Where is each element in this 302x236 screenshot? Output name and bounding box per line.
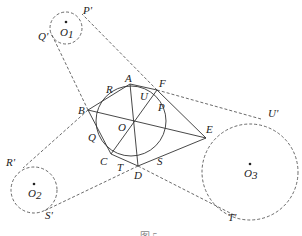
label-u-prime: U' <box>268 107 279 119</box>
label-s: S <box>157 155 163 167</box>
label-e: E <box>205 123 213 135</box>
label-f: F <box>158 77 166 89</box>
label-s-prime: S' <box>45 209 54 221</box>
label-p-prime: P' <box>82 4 93 16</box>
geometry-figure: A F E D C B R U P Q T S O P' Q' R' S' U'… <box>0 0 302 236</box>
diagonal-ad <box>130 84 138 166</box>
diagonal-be <box>88 110 206 138</box>
center-dot-o2 <box>33 183 36 186</box>
label-t: T <box>117 161 124 173</box>
figure-caption: 图 5 <box>140 231 158 236</box>
tangent-line-b-rprime <box>23 110 88 168</box>
tangent-line-d-sprime <box>44 166 138 211</box>
label-o3: O3 <box>244 167 258 181</box>
label-p: P <box>157 101 165 113</box>
label-d: D <box>133 169 142 181</box>
tangent-line-f-pprime <box>82 14 157 90</box>
label-u: U <box>140 90 149 102</box>
center-dot-o3 <box>249 163 252 166</box>
label-a: A <box>124 72 132 84</box>
label-r-prime: R' <box>5 156 16 168</box>
label-b: B <box>78 104 85 116</box>
label-o: O <box>118 121 126 133</box>
label-o2: O2 <box>28 187 42 201</box>
label-o1: O1 <box>60 26 73 40</box>
label-q: Q <box>88 131 96 143</box>
label-r: R <box>105 83 113 95</box>
label-c: C <box>100 155 108 167</box>
tangent-line-d-tprime <box>138 166 236 216</box>
tangent-line-f-uprime <box>157 90 261 119</box>
center-dot-o1 <box>65 21 68 24</box>
tangent-line-b-qprime <box>51 33 88 110</box>
label-q-prime: Q' <box>38 30 49 42</box>
label-t-prime: T' <box>228 211 237 223</box>
